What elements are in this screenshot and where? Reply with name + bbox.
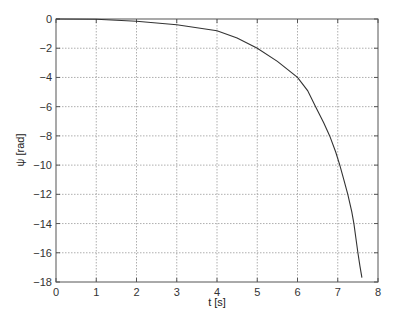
x-tick-label: 7: [335, 286, 341, 298]
y-tick-label: −6: [39, 101, 52, 113]
y-tick-label: −14: [33, 218, 52, 230]
y-tick-label: −10: [33, 159, 52, 171]
grid-lines: [56, 19, 378, 282]
psi-curve: [56, 19, 362, 278]
x-tick-label: 6: [294, 286, 300, 298]
y-tick-labels: 0−2−4−6−8−10−12−14−16−18: [33, 13, 52, 288]
y-tick-label: −8: [39, 130, 52, 142]
y-tick-label: −2: [39, 42, 52, 54]
x-tick-label: 8: [375, 286, 381, 298]
y-tick-label: −16: [33, 247, 52, 259]
x-tick-label: 3: [174, 286, 180, 298]
x-tick-label: 5: [254, 286, 260, 298]
x-axis-label: t [s]: [208, 296, 226, 308]
y-tick-label: −18: [33, 276, 52, 288]
x-tick-label: 0: [53, 286, 59, 298]
line-chart: 012345678 0−2−4−6−8−10−12−14−16−18 t [s]…: [0, 0, 398, 325]
y-tick-label: −4: [39, 71, 52, 83]
y-tick-label: 0: [46, 13, 52, 25]
y-tick-label: −12: [33, 188, 52, 200]
x-tick-label: 1: [93, 286, 99, 298]
x-tick-label: 2: [133, 286, 139, 298]
y-axis-label: ψ [rad]: [14, 134, 26, 167]
